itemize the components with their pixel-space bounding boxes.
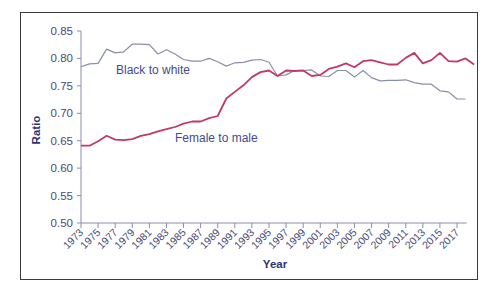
x-axis: 1973197519771979198119831985198719891991… [60,223,466,251]
series-lines [81,44,474,146]
y-tick-label: 0.75 [51,80,73,92]
y-tick-label: 0.65 [51,135,73,147]
x-axis-title: Year [263,258,288,270]
y-axis-title: Ratio [30,116,42,145]
x-tick-label: 2017 [436,226,461,251]
line-chart: 0.500.550.600.650.700.750.800.85 1973197… [0,0,492,300]
y-tick-label: 0.55 [51,190,73,202]
y-axis: 0.500.550.600.650.700.750.800.85 [51,25,81,229]
series-label-black-to-white: Black to white [116,63,190,77]
y-tick-label: 0.80 [51,52,73,64]
series-label-female-to-male: Female to male [175,131,258,145]
y-tick-label: 0.85 [51,25,73,37]
y-tick-label: 0.60 [51,162,73,174]
y-tick-label: 0.50 [51,217,73,229]
y-tick-label: 0.70 [51,107,73,119]
